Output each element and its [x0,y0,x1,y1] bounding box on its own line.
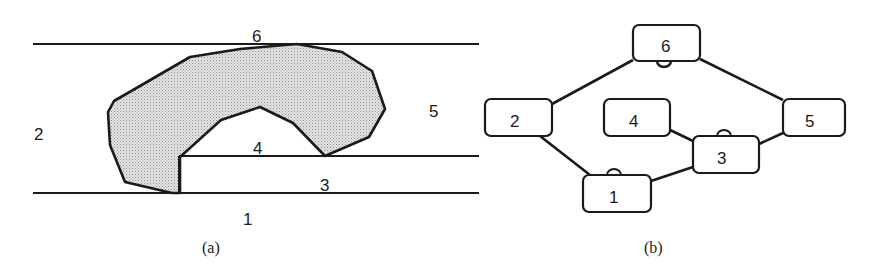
edge-4-3 [668,129,693,141]
shaded-obstacle [108,44,385,193]
node-label-3: 3 [717,149,726,168]
edge-6-5 [700,59,783,100]
figure: 6 2 5 4 3 1 (a) 6 2 4 [0,0,883,269]
node-4: 4 [604,99,670,136]
region-label-2: 2 [34,125,43,144]
region-label-6: 6 [252,27,261,46]
region-label-3: 3 [320,176,329,195]
node-6: 6 [633,25,700,61]
panel-b: 6 2 4 5 3 1 (b) [485,25,845,257]
node-5: 5 [783,99,845,136]
edge-3-5 [759,133,783,144]
node-label-5: 5 [805,112,814,131]
node-label-1: 1 [609,188,618,207]
caption-b: (b) [644,239,663,257]
region-label-4: 4 [253,139,262,158]
edge-6-2 [552,60,633,104]
node-1: 1 [583,175,651,212]
region-label-5: 5 [429,102,438,121]
panel-a: 6 2 5 4 3 1 (a) [33,27,479,257]
node-label-6: 6 [661,37,670,56]
edge-2-1 [540,136,590,175]
node-3: 3 [693,136,759,173]
region-label-1: 1 [243,210,252,229]
caption-a: (a) [202,239,220,257]
node-label-4: 4 [629,112,638,131]
node-label-2: 2 [510,112,519,131]
edge-1-3 [651,167,693,181]
node-2: 2 [485,99,552,136]
